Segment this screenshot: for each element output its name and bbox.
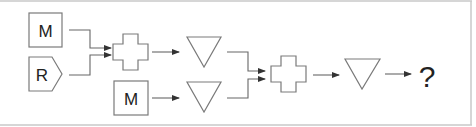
diagram-frame: M R M ? bbox=[0, 0, 476, 127]
r-label: R bbox=[36, 66, 48, 85]
edge-tri1-cross2 bbox=[227, 52, 265, 71]
m-label-1: M bbox=[38, 22, 52, 41]
flow-diagram: M R M ? bbox=[0, 0, 476, 127]
cross-node-1 bbox=[113, 34, 148, 70]
cross-node-2 bbox=[271, 56, 306, 92]
answer-question-mark: ? bbox=[419, 60, 436, 93]
edge-r1-cross1 bbox=[69, 55, 111, 75]
edge-m1-cross1 bbox=[69, 30, 111, 48]
m-label-2: M bbox=[124, 90, 138, 109]
edge-tri2-cross2 bbox=[227, 79, 265, 98]
triangle-node-1 bbox=[187, 37, 221, 67]
triangle-node-3 bbox=[345, 59, 380, 89]
triangle-node-2 bbox=[187, 82, 221, 112]
